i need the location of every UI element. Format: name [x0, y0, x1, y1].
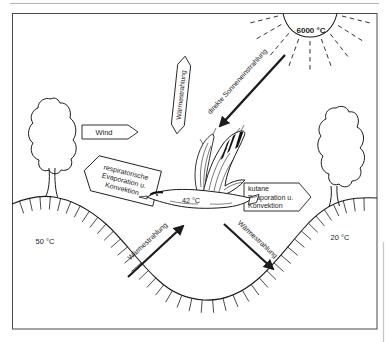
ground-temperature-left: 50 °C	[36, 237, 55, 246]
thermoregulation-diagram: 6000 °C Wind direkte Sonneneinstrahlung …	[0, 0, 386, 342]
wind-label: Wind	[95, 128, 112, 137]
wind-arrow-box: Wind	[82, 125, 138, 139]
bird-temperature-label: 42 °C	[182, 196, 200, 205]
cutaneous-line1: kutane	[248, 185, 269, 192]
ground-temperature-right: 20 °C	[331, 233, 350, 242]
sun-temperature-label: 6000 °C	[297, 26, 326, 35]
